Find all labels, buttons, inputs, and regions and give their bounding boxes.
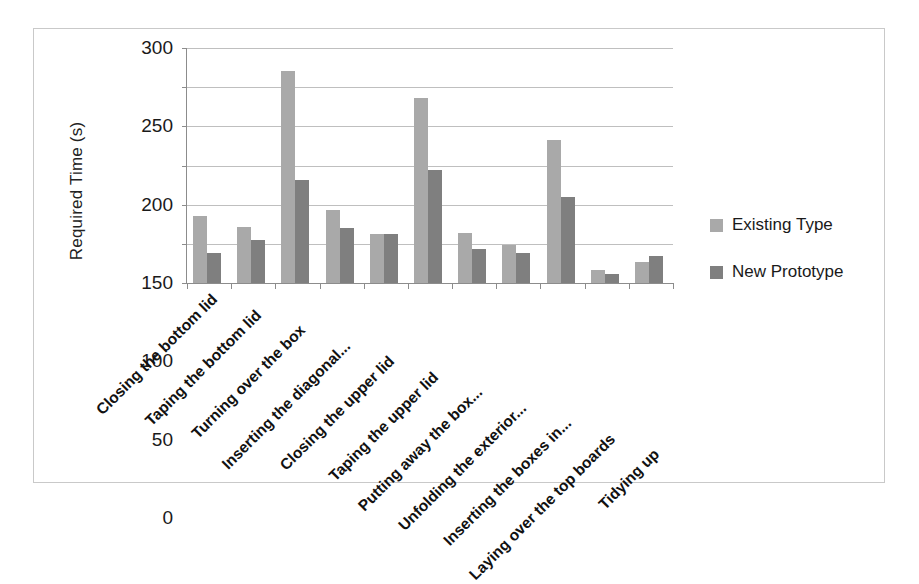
bar-group: [275, 48, 319, 283]
bar[interactable]: [281, 71, 295, 283]
legend-label: Existing Type: [732, 215, 833, 235]
bar[interactable]: [502, 245, 516, 283]
bar[interactable]: [237, 227, 251, 283]
legend-swatch-icon: [710, 266, 723, 279]
y-axis-title: Required Time (s): [67, 86, 87, 296]
y-tick-label: 200: [141, 194, 173, 216]
bar[interactable]: [414, 98, 428, 283]
x-axis-label: Turning over the box: [85, 322, 308, 545]
chart-legend: Existing TypeNew Prototype: [710, 215, 880, 309]
x-axis-label: Closing the upper lid: [174, 353, 397, 576]
bar[interactable]: [516, 253, 530, 283]
bar[interactable]: [561, 197, 575, 283]
bar-group: [585, 48, 629, 283]
bar[interactable]: [428, 170, 442, 283]
x-tick-mark: [187, 283, 188, 289]
x-axis-line: [186, 283, 673, 284]
x-tick-mark: [320, 283, 321, 289]
legend-label: New Prototype: [732, 262, 844, 282]
bar[interactable]: [547, 140, 561, 283]
y-tick-label: 300: [141, 37, 173, 59]
y-tick-label: 150: [141, 272, 173, 294]
bar-group: [408, 48, 452, 283]
legend-item[interactable]: Existing Type: [710, 215, 880, 235]
x-axis-label: Closing the bottom lid: [0, 291, 220, 514]
x-tick-mark: [673, 283, 674, 289]
x-tick-mark: [231, 283, 232, 289]
bar[interactable]: [326, 210, 340, 283]
x-axis-label: Taping the bottom lid: [41, 307, 264, 530]
bar[interactable]: [207, 253, 221, 283]
x-tick-mark: [540, 283, 541, 289]
bar-group: [364, 48, 408, 283]
bar[interactable]: [193, 216, 207, 283]
legend-item[interactable]: New Prototype: [710, 262, 880, 282]
x-tick-mark: [585, 283, 586, 289]
bar[interactable]: [340, 228, 354, 283]
bar[interactable]: [649, 256, 663, 283]
bar-group: [629, 48, 673, 283]
bar[interactable]: [251, 240, 265, 283]
chart-frame: Required Time (s) 300250200150100500 Clo…: [33, 28, 885, 483]
x-tick-mark: [452, 283, 453, 289]
bar-group: [320, 48, 364, 283]
bar[interactable]: [458, 233, 472, 283]
bar[interactable]: [472, 249, 486, 283]
bar-group: [496, 48, 540, 283]
bar-group: [231, 48, 275, 283]
bar[interactable]: [370, 234, 384, 283]
bar[interactable]: [295, 180, 309, 283]
bar[interactable]: [605, 274, 619, 283]
y-tick-label: 250: [141, 115, 173, 137]
bar-group: [452, 48, 496, 283]
plot-area: 300250200150100500: [187, 48, 673, 283]
legend-swatch-icon: [710, 219, 723, 232]
x-tick-mark: [496, 283, 497, 289]
x-tick-mark: [364, 283, 365, 289]
x-tick-mark: [275, 283, 276, 289]
bar[interactable]: [635, 262, 649, 283]
bar[interactable]: [384, 234, 398, 283]
x-axis-label: Taping the upper lid: [218, 369, 441, 584]
bar-group: [187, 48, 231, 283]
x-tick-mark: [629, 283, 630, 289]
bar-group: [540, 48, 584, 283]
x-axis-labels: Closing the bottom lidTaping the bottom …: [187, 291, 747, 481]
x-tick-mark: [408, 283, 409, 289]
bar[interactable]: [591, 270, 605, 283]
